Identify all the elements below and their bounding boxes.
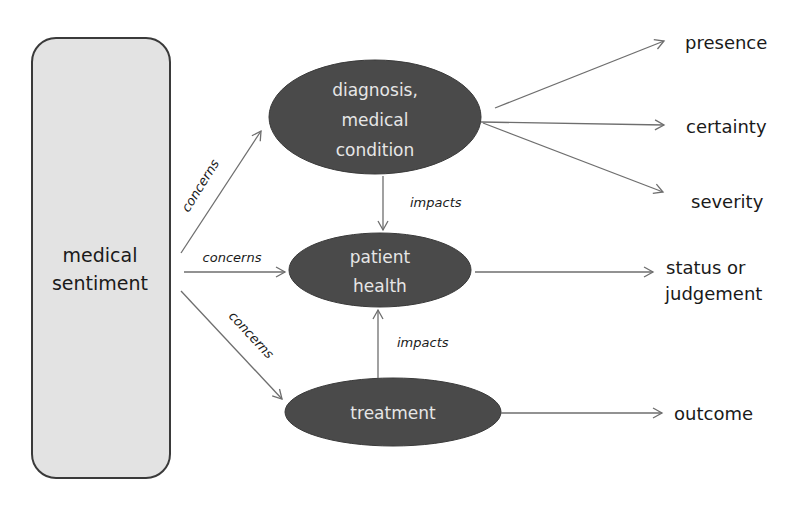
output-certainty: certainty — [686, 116, 767, 137]
output-severity: severity — [691, 191, 764, 212]
sentiment-diagram: medical sentiment diagnosis, medical con… — [0, 0, 797, 527]
diagnosis-label-3: condition — [336, 140, 415, 160]
label-impacts-treatment: impacts — [397, 335, 449, 350]
root-label-line1: medical — [63, 244, 138, 266]
label-impacts-diagnosis: impacts — [410, 195, 462, 210]
output-presence: presence — [685, 32, 767, 53]
root-label-line2: sentiment — [52, 272, 148, 294]
output-status-line2: judgement — [664, 283, 762, 304]
arrow-to-presence — [495, 41, 664, 108]
patient-health-label-1: patient — [350, 247, 411, 267]
label-concerns-diagnosis: concerns — [178, 156, 222, 214]
treatment-label: treatment — [350, 403, 436, 423]
label-concerns-health: concerns — [203, 250, 262, 265]
output-status-line1: status or — [666, 257, 746, 278]
output-outcome: outcome — [674, 403, 753, 424]
arrow-to-severity — [483, 123, 663, 192]
patient-health-label-2: health — [353, 276, 407, 296]
diagnosis-label-1: diagnosis, — [332, 80, 418, 100]
diagnosis-label-2: medical — [341, 110, 408, 130]
arrow-to-certainty — [481, 122, 664, 125]
label-concerns-treatment: concerns — [226, 308, 277, 361]
